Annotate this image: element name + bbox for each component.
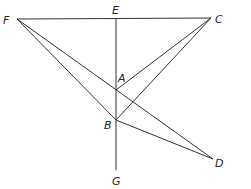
point-label-E: E — [112, 4, 119, 17]
segment-FD — [17, 19, 213, 159]
diagram-svg: F E C A B D G — [0, 0, 251, 189]
segment-BD — [116, 120, 213, 159]
point-label-C: C — [215, 13, 223, 26]
point-label-A: A — [117, 72, 126, 85]
point-label-B: B — [104, 119, 112, 132]
point-label-G: G — [112, 175, 121, 188]
segment-CB — [116, 18, 211, 120]
point-label-F: F — [3, 14, 10, 27]
segment-CA — [116, 18, 211, 90]
segment-FB — [17, 19, 116, 120]
geometry-diagram: F E C A B D G — [0, 0, 251, 189]
point-label-D: D — [215, 157, 223, 170]
segment-FC — [17, 18, 211, 19]
